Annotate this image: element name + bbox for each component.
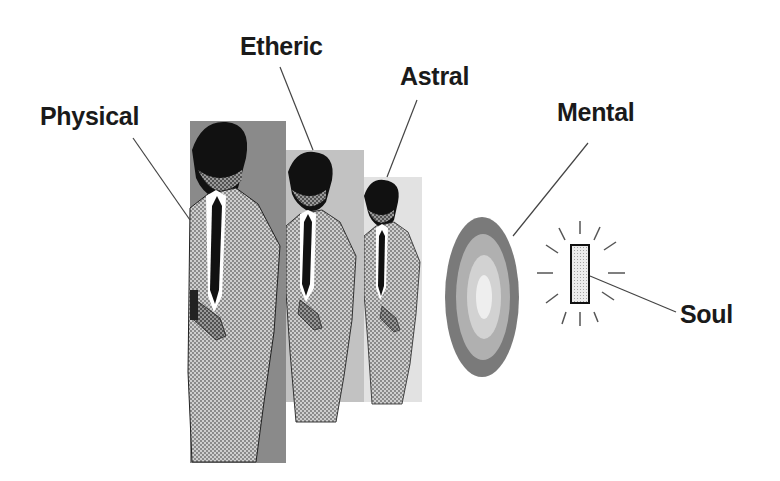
label-etheric: Etheric — [240, 32, 323, 61]
label-astral: Astral — [400, 62, 469, 91]
physical-body-figure — [188, 121, 286, 463]
soul-light-icon — [537, 221, 625, 326]
label-mental: Mental — [557, 98, 634, 127]
astral-body-figure — [362, 177, 422, 404]
subtle-bodies-diagram: Physical Etheric Astral Mental Soul — [0, 0, 780, 481]
mental-body-aura — [445, 217, 519, 377]
etheric-body-figure — [286, 150, 364, 422]
diagram-graphics — [0, 0, 780, 481]
label-physical: Physical — [40, 102, 139, 131]
label-soul: Soul — [680, 300, 733, 329]
